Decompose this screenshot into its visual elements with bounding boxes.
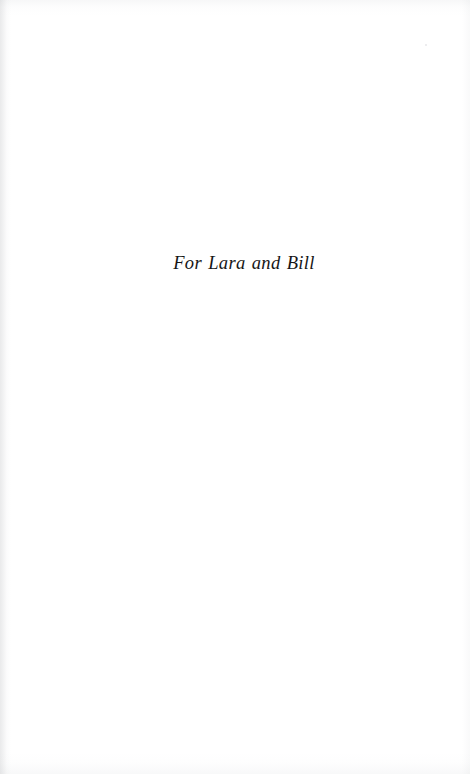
scan-edge-top bbox=[0, 0, 470, 16]
dedication-text: For Lara and Bill bbox=[173, 252, 315, 274]
scan-gutter-shadow bbox=[0, 0, 11, 774]
dedication-block: For Lara and Bill bbox=[0, 252, 470, 274]
dedication-page: For Lara and Bill bbox=[0, 0, 470, 774]
scan-edge-bottom bbox=[0, 752, 470, 774]
scan-speck bbox=[425, 44, 427, 46]
scan-edge-right bbox=[462, 0, 470, 774]
